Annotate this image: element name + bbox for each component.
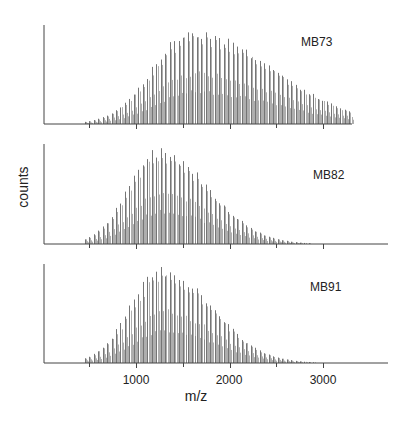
panel-label: MB73 <box>301 35 333 49</box>
x-axis-label: m/z <box>185 388 208 404</box>
y-axis-label: counts <box>15 166 31 207</box>
peak-series <box>86 267 316 363</box>
panel-label: MB82 <box>313 168 345 182</box>
spectrum-panel-mb82: MB82 <box>44 144 388 249</box>
peak-series <box>86 148 311 244</box>
x-tick-label-3000: 3000 <box>310 373 337 387</box>
panel-label: MB91 <box>310 280 342 294</box>
x-tick-label-1000: 1000 <box>123 373 150 387</box>
spectrum-panel-mb91: MB91 <box>44 264 388 368</box>
x-axis-ticks <box>90 363 324 368</box>
mass-spectra-figure: counts MB73 MB82 MB91 1000 2000 3000 m/z <box>0 0 408 421</box>
spectrum-panel-mb73: MB73 <box>44 25 354 129</box>
x-tick-label-2000: 2000 <box>216 373 243 387</box>
x-axis-ticks <box>90 244 324 249</box>
x-axis-ticks <box>90 124 324 129</box>
